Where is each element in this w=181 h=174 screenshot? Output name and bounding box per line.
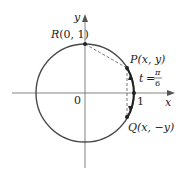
svg-text:π: π: [154, 68, 161, 77]
point-p: [125, 66, 129, 70]
y-axis-arrow-icon: [82, 14, 88, 22]
svg-text:6: 6: [155, 79, 160, 88]
svg-text:t: t: [139, 72, 144, 85]
point-q: [125, 115, 129, 119]
svg-text:=: =: [146, 72, 155, 85]
x-tick-label: 1: [137, 95, 144, 108]
angle-label: t = π 6: [139, 68, 162, 88]
unit-circle-diagram: y x 0 1 R(0, 1) P(x, y) Q(x, −y) t = π 6: [0, 0, 181, 174]
point-r: [83, 42, 87, 46]
point-p-label: P(x, y): [129, 53, 165, 66]
point-one: [132, 91, 136, 95]
point-q-label: Q(x, −y): [128, 121, 174, 134]
x-axis-label: x: [165, 96, 172, 109]
point-r-label: R(0, 1): [50, 28, 89, 41]
origin-label: 0: [74, 94, 81, 107]
y-axis-label: y: [73, 11, 81, 24]
dashed-chord-rp: [85, 44, 127, 68]
